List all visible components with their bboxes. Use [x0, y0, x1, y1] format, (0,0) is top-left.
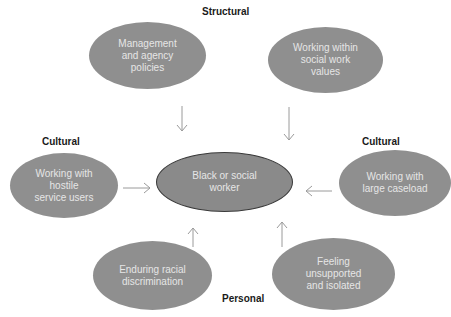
- arrow-management-to-center: [177, 106, 187, 131]
- arrow-racial-to-center: [188, 228, 198, 247]
- node-working-with-large-caseload: Working with large caseload: [339, 150, 451, 216]
- arrow-caseload-to-center: [306, 186, 332, 196]
- node-text: Working with large caseload: [362, 171, 427, 195]
- node-text: Black or social worker: [192, 170, 256, 194]
- node-feeling-unsupported-isolated: Feeling unsupported and isolated: [272, 238, 395, 310]
- node-enduring-racial-discrimination: Enduring racial discrimination: [93, 241, 212, 310]
- node-text: Management and agency policies: [118, 38, 176, 74]
- node-text: Feeling unsupported and isolated: [306, 256, 362, 292]
- node-text: Working within social work values: [293, 42, 358, 78]
- arrow-hostile-to-center: [123, 183, 150, 193]
- node-center-black-social-worker: Black or social worker: [156, 152, 293, 212]
- node-working-within-social-work-values: Working within social work values: [268, 27, 383, 93]
- node-text: Enduring racial discrimination: [119, 264, 186, 288]
- arrow-unsupported-to-center: [277, 222, 287, 247]
- node-working-with-hostile-service-users: Working with hostile service users: [10, 153, 118, 218]
- node-text: Working with hostile service users: [35, 168, 94, 204]
- node-management-agency-policies: Management and agency policies: [89, 22, 206, 89]
- arrow-values-to-center: [284, 107, 294, 140]
